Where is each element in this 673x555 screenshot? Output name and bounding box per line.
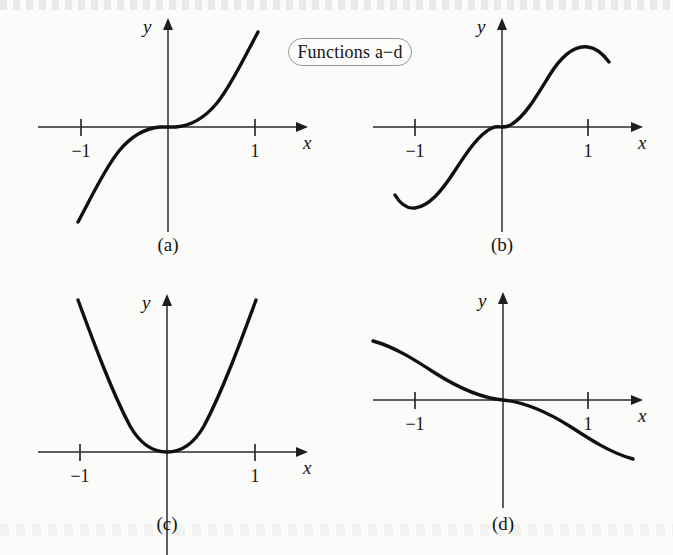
tick-label-neg-one-d: −1 <box>395 415 435 433</box>
y-axis-arrow-d <box>498 292 508 304</box>
panel-c: y x −1 1 (c) <box>0 278 336 555</box>
x-axis-arrow-b <box>631 122 643 132</box>
x-axis-arrow-d <box>631 395 643 405</box>
figure-root: y x −1 1 (a) y x −1 1 (b) <box>0 0 673 555</box>
panel-caption-d: (d) <box>473 514 533 533</box>
x-axis-arrow-c <box>296 447 308 457</box>
y-axis-arrow-b <box>497 18 507 30</box>
y-axis-label-d: y <box>478 291 486 310</box>
tick-label-neg-one-a: −1 <box>61 142 101 160</box>
x-axis-label-a: x <box>303 133 311 152</box>
tick-label-pos-one-b: 1 <box>568 142 608 160</box>
y-axis-label-c: y <box>142 293 150 312</box>
x-axis-arrow-a <box>296 122 308 132</box>
tick-label-neg-one-c: −1 <box>60 467 100 485</box>
tick-label-pos-one-c: 1 <box>235 467 275 485</box>
panel-caption-a: (a) <box>138 235 198 254</box>
panel-caption-c: (c) <box>137 514 197 533</box>
y-axis-arrow-a <box>163 18 173 30</box>
tick-label-pos-one-d: 1 <box>568 415 608 433</box>
functions-badge[interactable]: Functions a−d <box>288 38 412 66</box>
x-axis-label-d: x <box>638 406 646 425</box>
tick-label-neg-one-b: −1 <box>395 142 435 160</box>
x-axis-label-b: x <box>638 133 646 152</box>
y-axis-label-a: y <box>143 17 151 36</box>
x-axis-label-c: x <box>303 458 311 477</box>
panel-caption-b: (b) <box>472 235 532 254</box>
panel-d: y x −1 1 (d) <box>337 278 673 555</box>
panel-a: y x −1 1 (a) <box>0 0 336 277</box>
y-axis-arrow-c <box>162 294 172 306</box>
tick-label-pos-one-a: 1 <box>235 142 275 160</box>
y-axis-label-b: y <box>477 17 485 36</box>
functions-badge-label: Functions a−d <box>297 42 402 63</box>
